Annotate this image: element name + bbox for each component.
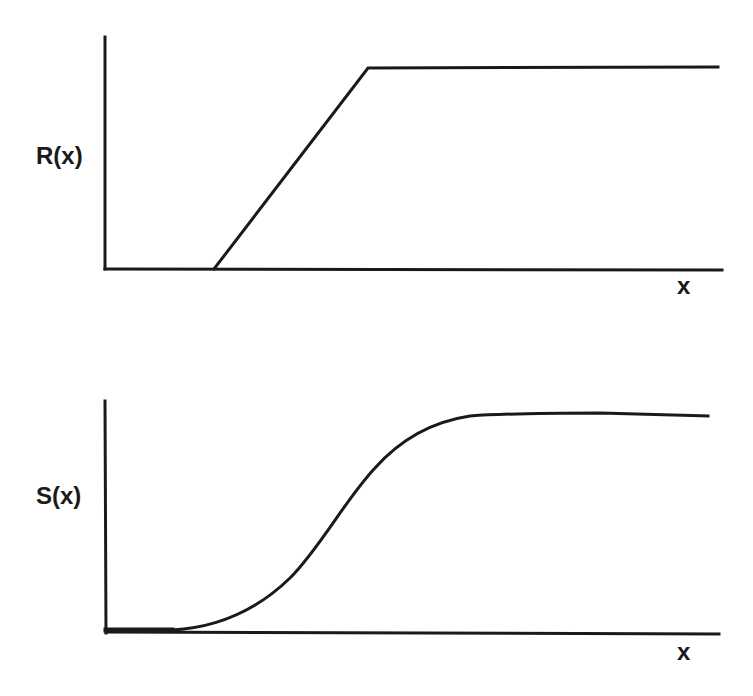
bottom-y-axis <box>105 401 106 633</box>
bottom-chart <box>105 401 719 634</box>
ramp-curve <box>214 67 718 269</box>
bottom-x-axis <box>106 632 719 634</box>
top-chart <box>105 37 722 270</box>
chart-canvas <box>0 0 753 696</box>
bottom-x-axis-label: x <box>677 640 690 664</box>
figure: R(x) x S(x) x <box>0 0 753 696</box>
top-y-axis-label: R(x) <box>36 144 83 168</box>
sigmoid-curve <box>172 413 708 630</box>
top-x-axis <box>105 269 722 270</box>
bottom-y-axis-label: S(x) <box>36 484 81 508</box>
top-x-axis-label: x <box>677 274 690 298</box>
